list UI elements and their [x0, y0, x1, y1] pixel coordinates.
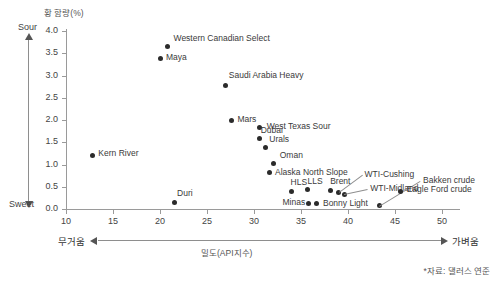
source-note: *자료: 댈러스 연준 — [424, 264, 490, 276]
sour-sweet-axis-line — [28, 40, 29, 207]
y-tick-mark — [62, 76, 66, 77]
sour-arrow-icon — [25, 33, 33, 40]
x-tick-label: 25 — [192, 216, 222, 226]
data-point-label: HLS — [291, 177, 308, 187]
x-tick-label: 30 — [239, 216, 269, 226]
x-tick-label: 15 — [98, 216, 128, 226]
data-point-label: Saudi Arabia Heavy — [229, 70, 304, 80]
y-axis-ticks: 0.00.51.01.52.02.53.03.54.0 — [0, 0, 58, 287]
x-tick-mark — [207, 210, 208, 214]
y-tick-mark — [62, 142, 66, 143]
x-tick-label: 35 — [286, 216, 316, 226]
data-point-label: Maya — [166, 52, 187, 62]
data-point-label: LLS — [308, 176, 323, 186]
y-axis-line — [66, 29, 67, 210]
chart-root: 황 함량(%) 밀도(API지수) *자료: 댈러스 연준 0.00.51.01… — [0, 0, 500, 287]
data-point-label: WTI-Cushing — [365, 169, 415, 179]
data-point[interactable] — [398, 189, 403, 194]
x-tick-mark — [395, 210, 396, 214]
light-arrow-icon — [441, 237, 448, 245]
data-point[interactable] — [271, 161, 276, 166]
x-tick-mark — [442, 210, 443, 214]
y-tick-mark — [62, 31, 66, 32]
y-tick-label: 3.5 — [0, 47, 58, 57]
y-tick-label: 3.0 — [0, 70, 58, 80]
y-tick-mark — [62, 187, 66, 188]
x-tick-mark — [66, 210, 67, 214]
y-tick-mark — [62, 53, 66, 54]
y-tick-label: 1.5 — [0, 136, 58, 146]
data-point-label: Eagle Ford crude — [407, 184, 472, 194]
data-point-label: Kern River — [98, 148, 138, 158]
label-sweet: Sweet — [9, 199, 34, 209]
x-tick-mark — [301, 210, 302, 214]
data-point[interactable] — [165, 44, 170, 49]
heavy-light-axis-line — [98, 240, 442, 241]
data-point-label: Mars — [237, 114, 256, 124]
data-point[interactable] — [172, 200, 177, 205]
data-point[interactable] — [314, 201, 319, 206]
x-tick-mark — [113, 210, 114, 214]
data-point-label: Bonny Light — [323, 198, 368, 208]
label-light: 가벼움 — [452, 234, 479, 248]
data-point-label: Duri — [177, 188, 193, 198]
y-tick-label: 0.5 — [0, 181, 58, 191]
y-tick-mark — [62, 120, 66, 121]
data-point[interactable] — [305, 187, 310, 192]
label-heavy: 무거움 — [58, 234, 85, 248]
heavy-arrow-icon — [90, 237, 97, 245]
x-tick-mark — [160, 210, 161, 214]
label-sour: Sour — [18, 22, 37, 32]
x-tick-mark — [254, 210, 255, 214]
leader-line — [344, 189, 367, 195]
x-tick-label: 10 — [51, 216, 81, 226]
y-tick-label: 2.5 — [0, 92, 58, 102]
x-tick-mark — [348, 210, 349, 214]
x-tick-label: 20 — [145, 216, 175, 226]
data-point-label: Oman — [280, 150, 303, 160]
data-point-label: Urals — [269, 134, 289, 144]
x-tick-label: 50 — [427, 216, 457, 226]
data-point[interactable] — [263, 145, 268, 150]
x-axis-line — [66, 209, 460, 210]
data-point[interactable] — [229, 118, 234, 123]
data-point[interactable] — [289, 189, 294, 194]
x-tick-label: 40 — [333, 216, 363, 226]
x-axis-title: 밀도(API지수) — [201, 246, 252, 258]
data-point-label: Western Canadian Select — [174, 33, 270, 43]
y-tick-label: 1.0 — [0, 159, 58, 169]
y-tick-mark — [62, 165, 66, 166]
y-tick-label: 2.0 — [0, 114, 58, 124]
data-point[interactable] — [158, 56, 163, 61]
x-tick-label: 45 — [380, 216, 410, 226]
data-point[interactable] — [267, 170, 272, 175]
data-point[interactable] — [90, 153, 95, 158]
data-point[interactable] — [306, 201, 311, 206]
y-tick-mark — [62, 98, 66, 99]
data-point-label: Minas — [283, 197, 306, 207]
data-point[interactable] — [223, 83, 228, 88]
data-point[interactable] — [328, 188, 333, 193]
data-point[interactable] — [257, 136, 262, 141]
